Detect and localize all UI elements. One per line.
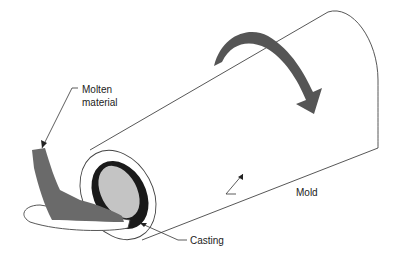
label-mold: Mold: [296, 186, 318, 199]
centrifugal-casting-diagram: Molten material Mold Casting: [0, 0, 401, 260]
diagram-drawing: [0, 0, 401, 260]
label-molten-material-2: material: [82, 96, 118, 109]
rotation-arrow: [214, 32, 322, 114]
label-molten-material-1: Molten: [82, 83, 112, 96]
label-casting: Casting: [190, 234, 224, 247]
